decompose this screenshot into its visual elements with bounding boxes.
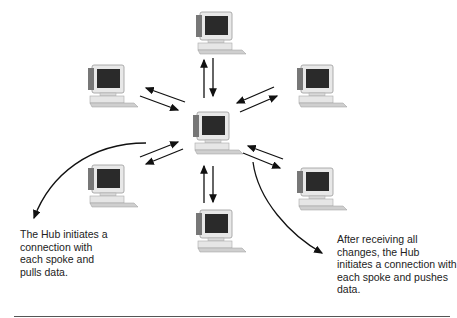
arrows-upper-right [237,87,277,112]
spoke-top [196,12,246,54]
arrows-top [204,58,213,98]
push-caption: After receiving all changes, the Hub ini… [337,233,457,296]
spoke-bottom [196,210,246,252]
spoke-lower-right [297,168,347,210]
hub-computer [193,112,243,154]
arrows-lower-right [243,146,283,168]
arrows-upper-left [140,88,185,110]
divider-rule [14,316,450,317]
arrows-bottom [204,166,213,203]
pull-caption: The Hub initiates a connection with each… [20,228,110,278]
arrows-lower-left [140,142,183,164]
spoke-upper-right [297,65,347,107]
spoke-lower-left [88,165,138,207]
spoke-upper-left [88,65,138,107]
